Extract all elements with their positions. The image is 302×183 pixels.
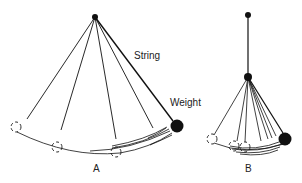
b-top-pivot — [245, 12, 251, 18]
caption-a: A — [93, 163, 100, 174]
b-weight-bob — [279, 133, 292, 146]
string-current — [95, 17, 173, 121]
pendulum-diagram — [0, 0, 302, 183]
ghost-weight-1 — [11, 122, 21, 132]
lower-string-7 — [248, 77, 276, 136]
string-position-2 — [61, 17, 95, 130]
weight-bob — [171, 120, 184, 133]
lower-string-6 — [248, 77, 272, 138]
caption-b: B — [245, 163, 252, 174]
weight-label: Weight — [170, 97, 201, 108]
pendulum-b — [207, 12, 292, 155]
string-label: String — [134, 50, 160, 61]
b-ghost-weight-1 — [207, 134, 217, 144]
pendulum-a — [11, 14, 184, 157]
string-position-3 — [95, 17, 116, 139]
b-middle-pivot — [244, 73, 252, 81]
string-position-4 — [95, 17, 153, 128]
lower-string-current — [248, 77, 283, 133]
string-position-1 — [27, 17, 95, 119]
pivot-point — [92, 14, 98, 20]
lower-string-5 — [248, 77, 268, 139]
